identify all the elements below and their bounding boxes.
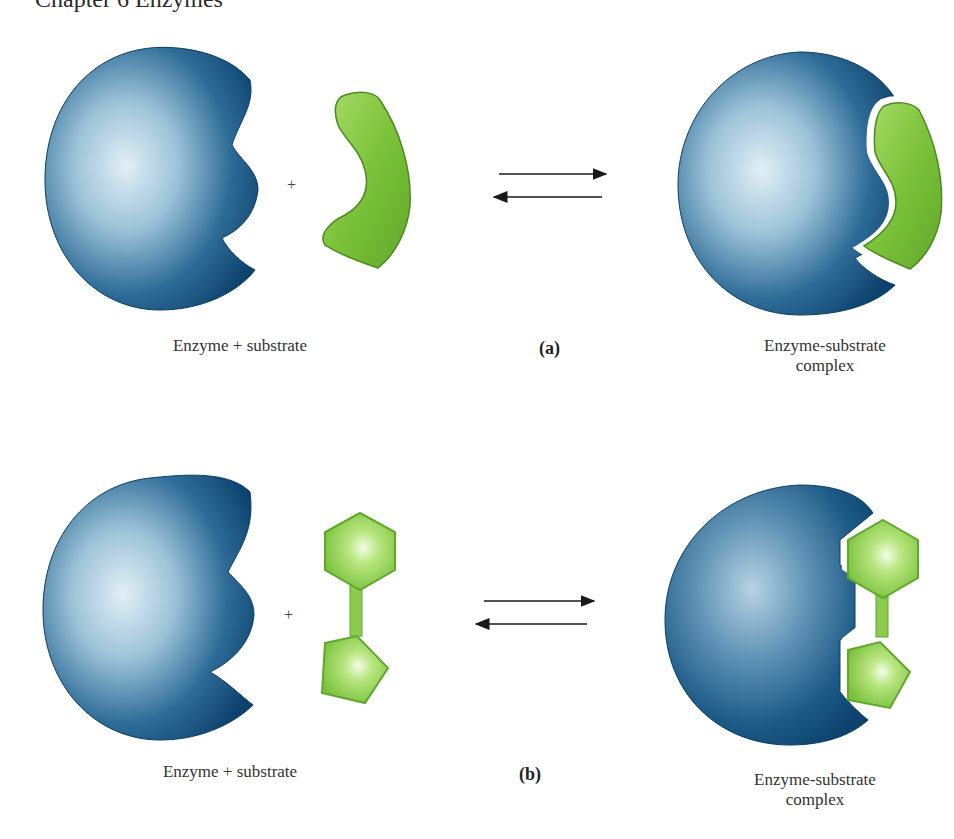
equilibrium-arrows-a (494, 174, 606, 197)
panel-label-b: (b) (519, 764, 541, 785)
enzyme-a-left (45, 47, 258, 310)
label-complex-b: Enzyme-substrate complex (710, 770, 920, 810)
label-complex-b-line1: Enzyme-substrate (710, 770, 920, 790)
label-enzyme-substrate-b: Enzyme + substrate (130, 762, 330, 782)
enzyme-diagram (0, 0, 954, 839)
substrate-a-left (323, 92, 410, 268)
panel-label-a: (a) (539, 338, 560, 359)
label-complex-a: Enzyme-substrate complex (720, 336, 930, 376)
substrate-b-left (322, 513, 395, 703)
label-complex-a-line1: Enzyme-substrate (720, 336, 930, 356)
label-complex-b-line2: complex (710, 790, 920, 810)
equilibrium-arrows-b (476, 601, 594, 624)
complex-b (665, 485, 918, 745)
complex-a (678, 52, 946, 315)
enzyme-b-left (43, 475, 254, 740)
plus-sign-b: + (284, 606, 293, 624)
label-complex-a-line2: complex (720, 356, 930, 376)
plus-sign-a: + (287, 176, 296, 194)
label-enzyme-substrate-a: Enzyme + substrate (140, 336, 340, 356)
